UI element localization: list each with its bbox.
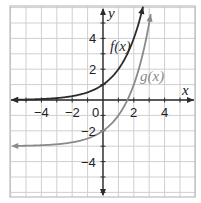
- curve-arrow-icon: [11, 143, 18, 149]
- x-tick-label: −2: [65, 105, 80, 120]
- x-tick-label: 2: [130, 105, 137, 120]
- y-tick-label: 2: [89, 62, 96, 77]
- x-tick-label: 4: [161, 105, 168, 120]
- y-tick-label: −4: [81, 155, 96, 170]
- axes: [11, 8, 194, 196]
- exponential-graph: x y 0 −4 −2 2 4 4 2 −2 −4 f(x) g(x): [0, 0, 201, 203]
- g-curve-label: g(x): [140, 68, 164, 85]
- f-curve-label: f(x): [110, 38, 131, 55]
- y-axis-label: y: [106, 5, 115, 21]
- y-axis-arrow-icon: [100, 8, 106, 15]
- origin-label: 0: [92, 105, 99, 120]
- y-tick-label: 4: [89, 31, 96, 46]
- x-axis-label: x: [181, 82, 189, 98]
- curve-arrow-icon: [11, 97, 18, 103]
- x-tick-label: −4: [34, 105, 49, 120]
- y-tick-label: −2: [81, 124, 96, 139]
